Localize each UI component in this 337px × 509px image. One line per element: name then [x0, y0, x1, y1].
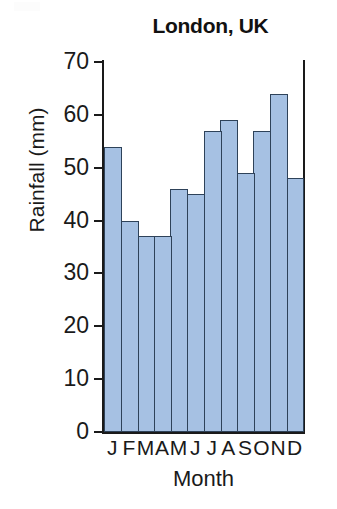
x-axis-tick-labels: JFMAMJJASOND — [104, 436, 303, 462]
y-axis-tick — [94, 325, 103, 327]
y-axis-tick-label: 30 — [29, 261, 89, 284]
bar[interactable] — [187, 194, 205, 432]
y-axis-tick-label: 40 — [29, 209, 89, 232]
y-axis-tick — [94, 272, 103, 274]
x-axis-line — [102, 432, 305, 434]
x-axis-tick-label: D — [282, 436, 307, 460]
y-axis-tick — [94, 220, 103, 222]
y-axis-tick-label: 10 — [29, 367, 89, 390]
bar[interactable] — [170, 189, 188, 432]
y-axis-tick — [94, 431, 103, 433]
bar[interactable] — [237, 173, 255, 432]
bar[interactable] — [220, 120, 238, 432]
bar[interactable] — [270, 94, 288, 432]
plot-area — [104, 62, 303, 432]
bar[interactable] — [104, 147, 122, 432]
y-axis-tick-label: 60 — [29, 103, 89, 126]
bar[interactable] — [286, 178, 304, 432]
bar[interactable] — [204, 131, 222, 432]
y-axis-tick-label: 20 — [29, 314, 89, 337]
rainfall-bar-chart: London, UK Rainfall (mm) 706050403020100… — [0, 0, 337, 509]
bar[interactable] — [154, 236, 172, 432]
scan-artifact — [14, 2, 40, 11]
y-axis-tick — [94, 61, 103, 63]
y-axis-tick-label: 50 — [29, 156, 89, 179]
y-axis-tick-label: 0 — [29, 420, 89, 443]
bar[interactable] — [121, 221, 139, 432]
y-axis-tick — [94, 167, 103, 169]
bar[interactable] — [137, 236, 155, 432]
bar[interactable] — [253, 131, 271, 432]
chart-title: London, UK — [0, 14, 337, 38]
x-axis-title: Month — [104, 466, 303, 492]
y-axis-tick — [94, 114, 103, 116]
y-axis-tick-label: 70 — [29, 50, 89, 73]
y-axis-tick — [94, 378, 103, 380]
